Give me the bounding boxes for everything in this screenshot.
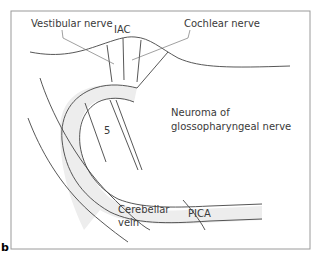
label-cerebellar-line1: Cerebellar (118, 204, 170, 215)
anatomical-diagram: b Vestibular nerve IAC Cochlear nerve Ne… (0, 0, 314, 256)
label-neuroma-line1: Neuroma of (171, 107, 230, 118)
panel-label: b (1, 241, 9, 254)
label-cn5: 5 (104, 125, 110, 136)
label-neuroma-line2: glossopharyngeal nerve (171, 121, 291, 132)
label-vestibular-nerve: Vestibular nerve (31, 18, 113, 29)
label-pica: PICA (188, 208, 211, 219)
label-cochlear-nerve: Cochlear nerve (184, 18, 260, 29)
label-cerebellar-line2: vein (118, 217, 139, 228)
label-iac: IAC (114, 24, 131, 35)
